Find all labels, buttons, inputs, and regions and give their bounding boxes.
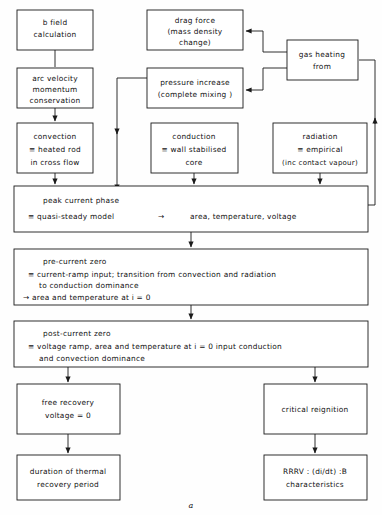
node-free-recovery[interactable]: free recovery voltage = 0	[17, 384, 120, 434]
connector-pressure-increase-to-peak-current	[117, 78, 147, 190]
node-label-line: ≡ empirical	[297, 145, 343, 154]
node-label-line: change)	[179, 38, 211, 47]
node-gas-heating-from[interactable]: gas heating from	[287, 40, 358, 80]
node-label-line: in cross flow	[30, 158, 79, 167]
node-label-line: to conduction dominance	[39, 281, 139, 290]
node-pressure-increase[interactable]: pressure increase (complete mixing )	[147, 68, 243, 108]
node-label-line: arc velocity	[32, 74, 78, 83]
node-label-line: critical reignition	[282, 405, 349, 414]
node-label-line: (complete mixing )	[158, 90, 233, 99]
node-label-line: → area and temperature at i = 0	[23, 293, 151, 302]
node-label-line: momentum	[33, 85, 78, 94]
node-detail-result: area, temperature, voltage	[190, 212, 297, 221]
node-label-line: (mass density	[167, 27, 222, 36]
node-label-line: recovery period	[37, 480, 99, 489]
connector-gas-heating-to-pressure-increase	[246, 68, 287, 90]
node-radiation[interactable]: radiation ≡ empirical (inc contact vapou…	[273, 123, 367, 173]
node-title: pre-current zero	[43, 257, 107, 266]
node-conduction[interactable]: conduction ≡ wall stabilised core	[151, 123, 238, 173]
node-label-line: RRRV : (di/dt) :B	[283, 467, 347, 476]
node-label-line: conduction	[172, 132, 215, 141]
node-label-line: from	[313, 62, 331, 71]
node-label-line: radiation	[302, 132, 337, 141]
node-label-line: calculation	[34, 30, 77, 39]
connector-gas-heating-to-drag-force	[246, 31, 287, 52]
node-label-line: free recovery	[42, 398, 95, 407]
node-label-line: drag force	[175, 16, 216, 25]
flowchart-canvas: b field calculation arc velocity momentu…	[0, 0, 382, 515]
figure-caption: a	[189, 501, 194, 510]
node-label-line: convection	[34, 132, 77, 141]
node-label-line: b field	[43, 18, 68, 27]
node-label-line: conservation	[30, 96, 81, 105]
node-drag-force[interactable]: drag force (mass density change)	[147, 10, 243, 50]
node-label-line: voltage = 0	[45, 411, 91, 420]
node-label-line: gas heating	[299, 50, 345, 59]
node-b-field-calculation[interactable]: b field calculation	[17, 10, 93, 50]
node-convection[interactable]: convection ≡ heated rod in cross flow	[17, 123, 93, 173]
node-label-line: ≡ wall stabilised	[161, 145, 226, 154]
node-title: peak current phase	[43, 196, 119, 205]
node-label-line: core	[185, 158, 202, 167]
node-label-line: ≡ voltage ramp, area and temperature at …	[28, 342, 282, 351]
node-detail-equiv: ≡ quasi-steady model	[28, 212, 114, 221]
flowchart-figure: b field calculation arc velocity momentu…	[0, 0, 382, 515]
node-rrrv-characteristics[interactable]: RRRV : (di/dt) :B characteristics	[264, 455, 367, 500]
node-arc-velocity-momentum-conservation[interactable]: arc velocity momentum conservation	[17, 68, 93, 108]
node-label-line: ≡ heated rod	[29, 145, 81, 154]
node-pre-current-zero[interactable]: pre-current zero ≡ current-ramp input; t…	[14, 249, 368, 305]
node-label-line: pressure increase	[160, 78, 230, 87]
node-detail-arrow: →	[158, 212, 164, 221]
node-label-line: and convection dominance	[39, 354, 145, 363]
node-title: post-current zero	[43, 329, 111, 338]
node-post-current-zero[interactable]: post-current zero ≡ voltage ramp, area a…	[14, 321, 368, 367]
node-label-line: (inc contact vapour)	[282, 159, 358, 167]
node-label-line: characteristics	[286, 480, 344, 489]
node-label-line: ≡ current-ramp input; transition from co…	[28, 270, 276, 279]
node-peak-current-phase[interactable]: peak current phase ≡ quasi-steady model …	[14, 186, 368, 232]
node-critical-reignition[interactable]: critical reignition	[264, 384, 367, 434]
node-label-line: duration of thermal	[30, 467, 107, 476]
node-duration-of-thermal-recovery-period[interactable]: duration of thermal recovery period	[17, 455, 120, 500]
